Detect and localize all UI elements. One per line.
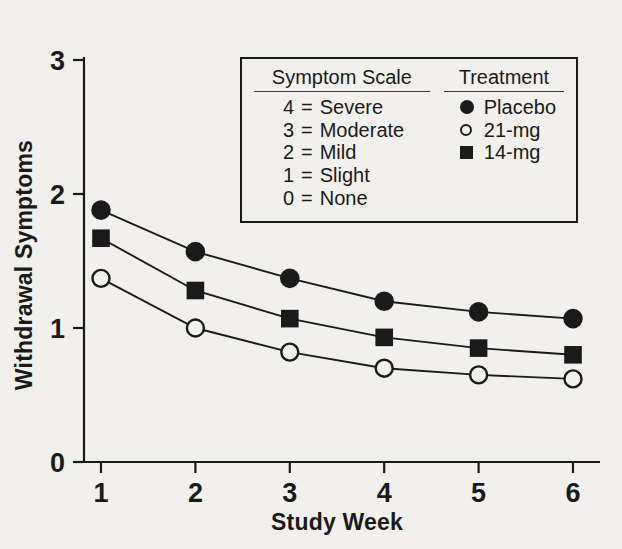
symptom-scale-value: 0	[280, 187, 294, 210]
x-axis-tick-label: 1	[93, 478, 108, 508]
x-axis-tick-label: 4	[377, 478, 392, 508]
legend-marker-filled-square-icon	[460, 146, 482, 159]
data-point-placebo	[470, 303, 488, 321]
data-point-14-mg	[187, 282, 203, 298]
treatment-legend-row: 21-mg	[444, 119, 566, 142]
data-point-14-mg	[282, 311, 298, 327]
treatment-legend-row: Placebo	[444, 96, 566, 119]
equals-sign: =	[294, 141, 320, 164]
data-point-21-mg	[187, 320, 204, 337]
legend-marker-open-circle-icon	[460, 124, 482, 136]
x-axis-tick-label: 5	[471, 478, 486, 508]
y-axis-tick-label: 3	[50, 46, 65, 76]
symptom-scale-row: 1=Slight	[254, 164, 444, 187]
symptom-scale-value: 4	[280, 96, 294, 119]
data-point-placebo	[375, 292, 393, 310]
series-line-14-mg	[101, 238, 573, 355]
symptom-scale-label: Slight	[320, 164, 370, 187]
chart-legend: Symptom Scale 4=Severe3=Moderate2=Mild1=…	[240, 57, 578, 223]
data-point-placebo	[564, 310, 582, 328]
x-axis-tick-label: 6	[565, 478, 580, 508]
y-axis-title: Withdrawal Symptoms	[11, 140, 37, 390]
treatment-legend-row: 14-mg	[444, 141, 566, 164]
legend-heading-symptom-scale: Symptom Scale	[254, 66, 430, 92]
symptom-scale-label: None	[320, 187, 368, 210]
withdrawal-symptoms-chart: 0123123456 Study WeekWithdrawal Symptoms…	[0, 0, 622, 549]
equals-sign: =	[294, 187, 320, 210]
x-axis-tick-label: 2	[188, 478, 203, 508]
y-axis-tick-label: 1	[50, 314, 65, 344]
treatment-legend-label: 21-mg	[482, 119, 541, 142]
data-point-placebo	[92, 201, 110, 219]
data-point-21-mg	[93, 270, 110, 287]
symptom-scale-label: Moderate	[320, 119, 405, 142]
legend-column-treatment: Treatment Placebo21-mg14-mg	[444, 66, 566, 213]
symptom-scale-label: Severe	[320, 96, 383, 119]
data-point-21-mg	[281, 344, 298, 361]
data-point-14-mg	[376, 329, 392, 345]
symptom-scale-row: 0=None	[254, 187, 444, 210]
symptom-scale-row: 2=Mild	[254, 141, 444, 164]
y-axis-tick-label: 0	[50, 448, 65, 478]
equals-sign: =	[294, 96, 320, 119]
data-point-placebo	[186, 243, 204, 261]
equals-sign: =	[294, 164, 320, 187]
open-circle-icon	[460, 124, 472, 136]
data-point-14-mg	[565, 347, 581, 363]
data-point-21-mg	[565, 370, 582, 387]
data-point-14-mg	[93, 230, 109, 246]
y-axis-tick-label: 2	[50, 180, 65, 210]
data-point-14-mg	[471, 340, 487, 356]
symptom-scale-row: 3=Moderate	[254, 119, 444, 142]
equals-sign: =	[294, 119, 320, 142]
symptom-scale-value: 1	[280, 164, 294, 187]
x-axis-title: Study Week	[271, 509, 403, 535]
legend-marker-filled-circle-icon	[460, 100, 482, 114]
legend-column-symptom-scale: Symptom Scale 4=Severe3=Moderate2=Mild1=…	[254, 66, 444, 213]
symptom-scale-label: Mild	[320, 141, 357, 164]
treatment-rows: Placebo21-mg14-mg	[444, 96, 566, 164]
symptom-scale-rows: 4=Severe3=Moderate2=Mild1=Slight0=None	[254, 96, 444, 209]
treatment-legend-label: 14-mg	[482, 141, 541, 164]
legend-heading-treatment: Treatment	[444, 66, 564, 92]
data-series-group	[92, 201, 582, 387]
x-axis-tick-label: 3	[282, 478, 297, 508]
treatment-legend-label: Placebo	[482, 96, 556, 119]
filled-square-icon	[460, 146, 473, 159]
data-point-placebo	[281, 269, 299, 287]
series-line-placebo	[101, 210, 573, 319]
data-point-21-mg	[376, 360, 393, 377]
symptom-scale-value: 3	[280, 119, 294, 142]
symptom-scale-value: 2	[280, 141, 294, 164]
filled-circle-icon	[460, 100, 474, 114]
symptom-scale-row: 4=Severe	[254, 96, 444, 119]
data-point-21-mg	[470, 366, 487, 383]
